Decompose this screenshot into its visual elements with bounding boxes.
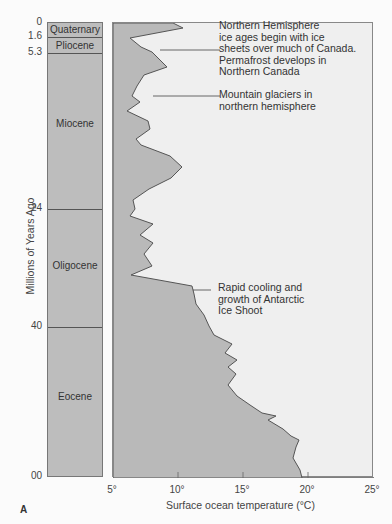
epoch-oligocene: Oligocene [48,260,102,271]
x-axis-label: Surface ocean temperature (°C) [166,499,315,511]
epoch-quaternary: Quaternary [48,24,102,35]
age-tick-1-6: 1.6 [12,30,42,41]
annotation-line: Rapid cooling and [218,282,304,294]
epoch-miocene: Miocene [48,118,102,129]
epoch-boundary-5-3 [48,53,102,54]
annotation-ice-ages: Northern Hemisphere ice ages begin with … [219,20,356,78]
age-tick-bottom: 00 [12,470,42,481]
epoch-eocene: Eocene [48,391,102,402]
annotation-antarctic: Rapid cooling and growth of Antarctic Ic… [218,282,304,317]
y-axis-label: Millions of Years Ago [24,176,36,316]
annotation-mountain-glaciers: Mountain glaciers in northern hemisphere [219,89,316,112]
panel-label: A [20,504,27,515]
age-tick-40: 40 [12,320,42,331]
x-tick-25: 25° [357,484,387,495]
annotation-line: sheets over much of Canada. [219,43,356,55]
epoch-pliocene: Pliocene [48,40,102,51]
epoch-boundary-1-6 [48,37,102,38]
annotation-line: Northern Canada [219,66,356,78]
annotation-line: Northern Hemisphere [219,20,356,32]
x-tick-15: 15° [227,484,257,495]
epoch-boundary-24 [48,209,102,210]
annotation-line: Ice Shoot [218,305,304,317]
x-tick-20: 20° [292,484,322,495]
x-tick-10: 10° [162,484,192,495]
age-tick-0: 0 [12,16,42,27]
annotation-line: Mountain glaciers in [219,89,316,101]
age-tick-5-3: 5.3 [12,46,42,57]
epoch-boundary-40 [48,327,102,328]
annotation-line: northern hemisphere [219,101,316,113]
x-tick-5: 5° [97,484,127,495]
epoch-column: Quaternary Pliocene Miocene Oligocene Eo… [47,22,103,477]
